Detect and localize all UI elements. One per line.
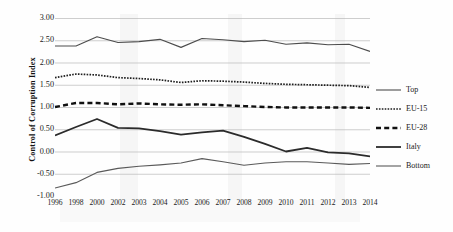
legend-item-top[interactable]: Top (376, 80, 453, 99)
x-tick-label: 2003 (131, 198, 146, 207)
x-tick-label: 2005 (173, 198, 188, 207)
plot-area (55, 18, 370, 196)
chart-figure: Control of Corruption Index 3.002.502.00… (0, 0, 453, 232)
y-tick-label: -0.50 (18, 170, 54, 178)
x-tick-label: 2008 (236, 198, 251, 207)
y-tick-label: 2.50 (18, 36, 54, 44)
x-axis-tick-labels: 1996199820002002200320042005200620072008… (55, 198, 370, 212)
legend-label-italy: Italy (406, 142, 421, 151)
x-tick-label: 2007 (215, 198, 230, 207)
chart-legend: Top EU-15 EU-28 Italy Bottom (376, 80, 453, 175)
legend-swatch-top (376, 85, 401, 95)
x-tick-label: 2004 (152, 198, 167, 207)
y-tick-label: 1.50 (18, 81, 54, 89)
legend-swatch-eu-28 (376, 123, 401, 133)
x-tick-label: 2012 (320, 198, 335, 207)
x-tick-label: 2010 (278, 198, 293, 207)
legend-item-eu-28[interactable]: EU-28 (376, 118, 453, 137)
x-tick-label: 2011 (300, 198, 315, 207)
series-line-top (55, 37, 370, 52)
series-line-bottom (55, 159, 370, 188)
y-tick-label: 0.50 (18, 125, 54, 133)
legend-item-bottom[interactable]: Bottom (376, 156, 453, 175)
x-tick-label: 2006 (194, 198, 209, 207)
legend-item-eu-15[interactable]: EU-15 (376, 99, 453, 118)
x-tick-label: 2002 (110, 198, 125, 207)
y-tick-label: 0.00 (18, 148, 54, 156)
y-tick-label: 1.00 (18, 103, 54, 111)
x-tick-label: 1996 (47, 198, 62, 207)
legend-item-italy[interactable]: Italy (376, 137, 453, 156)
x-tick-label: 2014 (362, 198, 377, 207)
legend-label-bottom: Bottom (406, 161, 430, 170)
series-lines (55, 37, 370, 188)
x-tick-label: 1998 (68, 198, 83, 207)
x-tick-label: 2013 (341, 198, 356, 207)
x-tick-label: 2000 (89, 198, 104, 207)
legend-label-top: Top (406, 85, 418, 94)
y-tick-label: 2.00 (18, 59, 54, 67)
legend-swatch-italy (376, 142, 401, 152)
series-line-italy (55, 119, 370, 156)
legend-label-eu-28: EU-28 (406, 123, 427, 132)
legend-swatch-eu-15 (376, 104, 401, 114)
y-tick-label: 3.00 (18, 14, 54, 22)
legend-label-eu-15: EU-15 (406, 104, 427, 113)
x-tick-label: 2009 (257, 198, 272, 207)
gridlines (55, 19, 370, 197)
legend-swatch-bottom (376, 161, 401, 171)
